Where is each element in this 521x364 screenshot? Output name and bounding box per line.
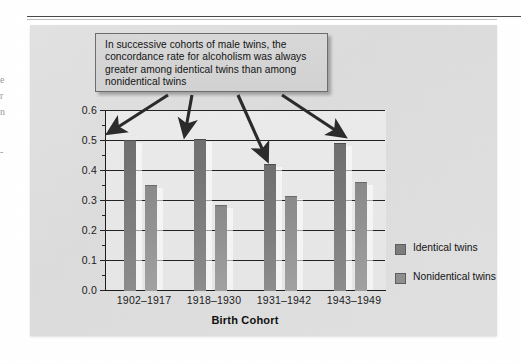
bar-highlight [157, 188, 163, 290]
y-axis-tick [100, 110, 105, 111]
margin-text-fragment-3: n [0, 106, 5, 117]
x-axis-tick-label: 1918–1930 [187, 294, 241, 306]
y-axis-tick [100, 170, 105, 171]
y-axis-tick-label: 0.6 [65, 104, 97, 116]
x-axis-title: Birth Cohort [105, 314, 385, 326]
bar-identical-1 [124, 140, 136, 291]
legend-item-identical: Identical twins [395, 243, 495, 265]
bar-nonidentical-1 [145, 185, 157, 291]
callout-box: In successive cohorts of male twins, the… [95, 33, 328, 92]
y-axis-minor-tick [102, 275, 106, 276]
bar-highlight [297, 199, 303, 291]
margin-text-fragment-2: r [0, 90, 3, 101]
y-axis-tick-label: 0.4 [65, 164, 97, 176]
figure-page: e r n - 0.60.50.40.30.20.10.0 Concordanc… [0, 0, 521, 364]
y-gridline [105, 110, 385, 111]
y-axis-tick [100, 230, 105, 231]
callout-text: In successive cohorts of male twins, the… [105, 39, 323, 89]
y-axis-minor-tick [102, 125, 106, 126]
y-axis-minor-tick [102, 155, 106, 156]
page-top-rule-secondary [27, 19, 497, 20]
y-axis-tick-label: 0.2 [65, 224, 97, 236]
y-axis-minor-tick [102, 245, 106, 246]
y-axis-tick-label: 0.1 [65, 254, 97, 266]
page-top-rule [27, 16, 521, 17]
bar-highlight [367, 185, 373, 290]
legend-label-nonidentical: Nonidentical twins [413, 271, 497, 283]
y-axis-tick-label: 0.5 [65, 134, 97, 146]
bar-highlight [136, 143, 142, 290]
margin-text-fragment-4: - [0, 146, 3, 157]
y-axis-tick-label: 0.3 [65, 194, 97, 206]
y-axis-minor-tick [102, 185, 106, 186]
legend-swatch-identical [395, 244, 406, 255]
x-axis-tick-label: 1931–1942 [257, 294, 311, 306]
margin-text-fragment-1: e [0, 74, 4, 85]
legend-label-identical: Identical twins [413, 242, 497, 254]
y-axis-tick-label: 0.0 [65, 284, 97, 296]
bar-identical-4 [334, 143, 346, 291]
bar-highlight [227, 208, 233, 291]
bar-identical-2 [194, 139, 206, 292]
bar-nonidentical-3 [285, 196, 297, 292]
bar-nonidentical-4 [355, 182, 367, 291]
y-axis-tick [100, 200, 105, 201]
y-axis-minor-tick [102, 215, 106, 216]
bar-highlight [276, 167, 282, 290]
bar-identical-3 [264, 164, 276, 291]
chart-legend: Identical twins Nonidentical twins [395, 243, 495, 301]
y-axis-tick [100, 260, 105, 261]
y-axis-tick [100, 290, 105, 291]
y-axis-tick [100, 140, 105, 141]
bar-highlight [346, 146, 352, 290]
y-gridline [105, 140, 385, 141]
x-axis-tick-label: 1943–1949 [327, 294, 381, 306]
legend-swatch-nonidentical [395, 273, 406, 284]
x-axis-tick-label: 1902–1917 [117, 294, 171, 306]
bar-highlight [206, 142, 212, 291]
legend-item-nonidentical: Nonidentical twins [395, 272, 495, 294]
bar-nonidentical-2 [215, 205, 227, 292]
